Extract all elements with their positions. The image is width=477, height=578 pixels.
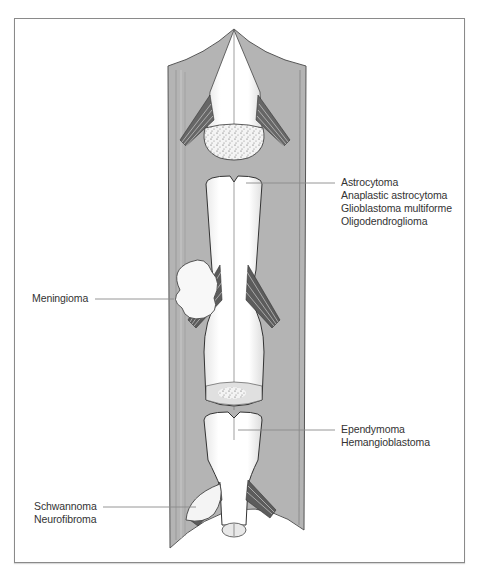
label-neurofibroma: Neurofibroma — [34, 513, 97, 526]
label-astrocytoma: Astrocytoma — [341, 176, 452, 189]
label-schwannoma: Schwannoma — [34, 500, 97, 513]
label-meningeal-tumors: Meningioma — [32, 292, 88, 305]
label-glioblastoma-multiforme: Glioblastoma multiforme — [341, 202, 452, 215]
label-intramedullary-tumors: Astrocytoma Anaplastic astrocytoma Gliob… — [341, 176, 452, 228]
label-meningioma: Meningioma — [32, 292, 88, 305]
label-hemangioblastoma: Hemangioblastoma — [341, 436, 430, 449]
label-nerve-root-tumors: Schwannoma Neurofibroma — [34, 500, 97, 526]
label-conus-tumors: Ependymoma Hemangioblastoma — [341, 423, 430, 449]
spinal-cord-illustration — [0, 0, 477, 578]
label-anaplastic-astrocytoma: Anaplastic astrocytoma — [341, 189, 452, 202]
label-ependymoma: Ependymoma — [341, 423, 430, 436]
label-oligodendroglioma: Oligodendroglioma — [341, 215, 452, 228]
